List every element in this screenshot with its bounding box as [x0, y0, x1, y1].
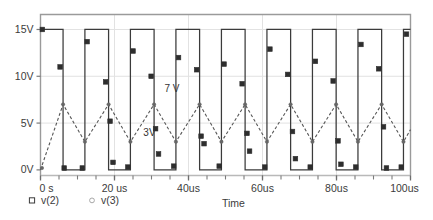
data-point-marker — [334, 103, 337, 106]
data-point-marker — [384, 166, 389, 171]
legend-label-v3[interactable]: v(3) — [101, 194, 119, 206]
data-point-marker — [262, 165, 267, 170]
data-point-marker — [381, 125, 386, 130]
data-point-marker — [311, 140, 314, 143]
annotation-1: 3V — [143, 127, 156, 138]
data-point-marker — [285, 72, 290, 77]
data-point-marker — [126, 165, 131, 170]
data-point-marker — [176, 55, 181, 60]
data-point-marker — [171, 164, 176, 169]
series-markers-v2 — [40, 27, 409, 170]
data-point-marker — [108, 119, 113, 124]
data-point-marker — [293, 156, 298, 161]
data-point-marker — [156, 152, 161, 157]
data-point-marker — [131, 49, 136, 54]
series-line-v2 — [41, 29, 411, 169]
data-point-marker — [308, 165, 313, 170]
data-point-marker — [265, 140, 268, 143]
data-point-marker — [194, 67, 199, 72]
data-point-marker — [399, 165, 404, 170]
data-point-marker — [107, 103, 110, 106]
data-point-marker — [40, 27, 45, 32]
data-point-marker — [129, 140, 132, 143]
data-point-marker — [331, 79, 336, 84]
legend-marker-circle — [90, 198, 95, 203]
data-point-marker — [359, 42, 364, 47]
data-point-marker — [85, 39, 90, 44]
series-line-v3 — [41, 104, 411, 170]
data-point-marker — [103, 80, 108, 85]
data-point-marker — [243, 103, 246, 106]
ytick-label-1: 5V — [21, 117, 34, 129]
ytick-label-3: 15V — [15, 23, 34, 35]
data-point-marker — [404, 32, 409, 37]
data-point-marker — [240, 81, 245, 86]
chart-canvas: 0V5V10V15V0 s20 us40us60us80us100usTime7… — [0, 0, 433, 220]
data-point-marker — [339, 162, 344, 167]
data-point-marker — [61, 103, 64, 106]
data-point-marker — [402, 140, 405, 143]
xtick-label-5: 100us — [390, 182, 419, 194]
data-point-marker — [353, 165, 358, 170]
data-point-marker — [217, 164, 222, 169]
data-point-marker — [376, 66, 381, 71]
legend-marker-square — [29, 198, 34, 203]
xtick-label-2: 40us — [177, 182, 200, 194]
x-axis-title: Time — [222, 197, 245, 209]
signal-plot: 0V5V10V15V0 s20 us40us60us80us100usTime7… — [0, 0, 433, 220]
series-markers-v3 — [40, 103, 405, 170]
data-point-marker — [356, 140, 359, 143]
data-point-marker — [268, 47, 273, 52]
data-point-marker — [290, 129, 295, 134]
xtick-label-3: 60us — [251, 182, 274, 194]
data-point-marker — [222, 62, 227, 67]
xtick-label-1: 20 us — [102, 182, 128, 194]
ytick-label-0: 0V — [21, 163, 34, 175]
legend-label-v2[interactable]: v(2) — [41, 194, 59, 206]
annotation-0: 7 V — [164, 83, 179, 94]
data-point-marker — [152, 103, 155, 106]
data-point-marker — [313, 59, 318, 64]
xtick-label-0: 0 s — [39, 182, 53, 194]
data-point-marker — [202, 141, 207, 146]
ytick-label-2: 10V — [15, 70, 34, 82]
data-point-marker — [149, 74, 154, 79]
plot-frame — [41, 15, 411, 176]
data-point-marker — [40, 166, 43, 169]
data-point-marker — [380, 103, 383, 106]
data-point-marker — [62, 166, 67, 171]
data-point-marker — [289, 103, 292, 106]
data-point-marker — [80, 166, 85, 171]
data-point-marker — [174, 140, 177, 143]
data-point-marker — [199, 134, 204, 139]
data-point-marker — [198, 103, 201, 106]
data-point-marker — [83, 140, 86, 143]
chart-legend: v(2)v(3) — [29, 194, 119, 206]
data-point-marker — [247, 149, 252, 154]
data-point-marker — [58, 65, 63, 70]
data-point-marker — [111, 160, 116, 165]
xtick-label-4: 80us — [325, 182, 348, 194]
data-point-marker — [336, 139, 341, 144]
data-point-marker — [220, 140, 223, 143]
data-point-marker — [245, 131, 250, 136]
